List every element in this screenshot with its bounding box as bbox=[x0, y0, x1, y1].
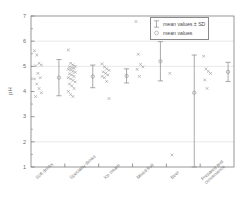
data-point bbox=[69, 62, 72, 65]
y-tick-label: 7 bbox=[16, 13, 26, 19]
data-point bbox=[203, 79, 206, 82]
y-tick-label: 3 bbox=[16, 113, 26, 119]
data-point bbox=[104, 72, 107, 75]
y-tick-label: 6 bbox=[16, 38, 26, 44]
legend-label-errorbar: mean values ± SD bbox=[163, 21, 205, 27]
data-point bbox=[39, 76, 42, 79]
data-point bbox=[72, 95, 75, 98]
data-point bbox=[101, 62, 104, 65]
y-axis-label: pH bbox=[7, 80, 13, 102]
data-point bbox=[34, 95, 37, 98]
data-point bbox=[108, 97, 111, 100]
chart-figure: pH mean values ± SD mean values 1234567S… bbox=[0, 0, 245, 222]
data-point bbox=[107, 74, 110, 77]
y-tick-label: 1 bbox=[16, 164, 26, 170]
data-point bbox=[209, 72, 212, 75]
data-point bbox=[105, 80, 108, 83]
data-point bbox=[73, 75, 76, 78]
data-point bbox=[138, 75, 141, 78]
data-point bbox=[67, 49, 70, 52]
legend-label-mean: mean values bbox=[163, 30, 192, 36]
data-point bbox=[40, 91, 43, 94]
data-point bbox=[205, 68, 208, 71]
data-point bbox=[139, 63, 142, 66]
data-point bbox=[37, 72, 40, 75]
data-point bbox=[206, 87, 209, 90]
y-tick-label: 5 bbox=[16, 63, 26, 69]
error-bar bbox=[192, 55, 197, 167]
chart-legend: mean values ± SD mean values bbox=[150, 17, 209, 40]
data-point bbox=[137, 53, 140, 56]
data-point bbox=[33, 49, 36, 52]
data-point bbox=[168, 72, 171, 75]
data-point bbox=[105, 68, 108, 71]
data-point bbox=[171, 154, 174, 157]
data-point bbox=[67, 90, 70, 93]
circle-icon bbox=[153, 29, 160, 37]
data-point bbox=[73, 87, 76, 90]
data-point bbox=[67, 68, 70, 71]
data-point bbox=[74, 81, 77, 84]
data-point bbox=[35, 83, 38, 86]
data-point bbox=[40, 64, 43, 67]
data-point bbox=[142, 65, 145, 68]
legend-item-mean: mean values bbox=[153, 29, 205, 37]
data-point bbox=[135, 20, 138, 23]
data-point bbox=[70, 66, 73, 69]
legend-item-errorbar: mean values ± SD bbox=[153, 20, 205, 28]
data-point bbox=[136, 68, 139, 71]
data-point bbox=[68, 65, 71, 68]
data-point bbox=[70, 85, 73, 88]
data-point bbox=[72, 63, 75, 66]
data-point bbox=[202, 55, 205, 58]
data-point bbox=[102, 71, 105, 74]
y-tick-label: 2 bbox=[16, 139, 26, 145]
data-point bbox=[72, 79, 75, 82]
data-point bbox=[108, 69, 111, 72]
errorbar-icon bbox=[153, 20, 160, 28]
data-point bbox=[38, 87, 41, 90]
data-point bbox=[34, 64, 37, 67]
data-point bbox=[35, 54, 38, 57]
data-point bbox=[33, 78, 36, 81]
y-tick-label: 4 bbox=[16, 88, 26, 94]
data-point bbox=[38, 62, 41, 65]
